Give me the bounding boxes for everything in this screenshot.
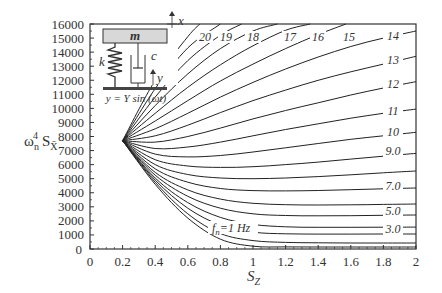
y-tick-label: 2000 [58,213,84,228]
y-tick-label: 15000 [52,31,85,46]
spring-label: k [99,54,105,69]
curve-label-20: 20 [199,30,211,44]
x-tick-label: 0.6 [180,254,197,269]
y-tick-label: 6000 [58,157,84,172]
mass-label: m [130,28,140,43]
y-axis-title: ωn4SX̄ [24,130,58,152]
x-tick-label: 2 [413,254,420,269]
spring-mass-damper-inset: m k c y x y = Y sin (ωt) [94,11,184,105]
curve-label-10: 10 [387,125,399,139]
damper-label: c [151,48,157,63]
y-tick-label: 13000 [52,59,85,74]
y-tick-label: 0 [76,242,83,257]
curve-label-16: 16 [312,30,324,44]
x-arrow-icon [169,11,175,16]
x-title-sub-Z: Z [255,276,261,287]
y-title-S: S [42,133,50,149]
y-tick-label: 5000 [58,171,84,186]
y-tick-label: 7000 [58,143,84,158]
y-title-sub-X: X̄ [50,141,58,152]
y-tick-label: 9000 [58,115,84,130]
x-tick-label: 0.8 [212,254,228,269]
y-axis-ticks: 0100020003000400050006000700080009000100… [52,17,95,258]
curve-label-13: 13 [387,53,399,67]
curve-label-11: 11 [387,104,398,118]
curve-label-12: 12 [387,77,399,91]
svg-text:ωn4SX̄: ωn4SX̄ [24,130,58,152]
x-tick-label: 1.2 [277,254,293,269]
x-tick-label: 0.4 [147,254,164,269]
curve-label-18: 18 [247,30,259,44]
y-label: y [155,70,163,85]
y-tick-label: 12000 [52,73,85,88]
x-axis-title: SZ [247,268,261,287]
curve-fn-9 [123,141,416,168]
curve-label-15: 15 [343,30,355,44]
x-tick-label: 1.8 [375,254,391,269]
curve-label-7.0: 7.0 [386,179,401,193]
x-label: x [177,13,184,28]
curve-label-19: 19 [220,30,232,44]
x-tick-label: 0.2 [114,254,130,269]
curve-label-14: 14 [387,29,399,43]
curve-label-5.0: 5.0 [386,204,401,218]
y-title-sub-n: n [34,141,39,152]
y-title-sup-4: 4 [33,130,38,141]
curve-fn-10 [123,132,416,157]
equation-label: y = Y sin (ωt) [105,92,167,105]
y-tick-label: 16000 [52,17,85,32]
y-tick-label: 11000 [52,87,84,102]
y-tick-label: 8000 [58,129,84,144]
y-tick-label: 14000 [52,45,85,60]
y-tick-label: 1000 [58,227,84,242]
svg-text:SZ: SZ [247,268,261,287]
x-tick-label: 1.4 [310,254,327,269]
y-tick-label: 10000 [52,101,85,116]
x-tick-label: 1.6 [343,254,360,269]
curve-fn-8 [123,141,416,179]
y-tick-label: 3000 [58,199,84,214]
chart: 0100020003000400050006000700080009000100… [0,0,442,293]
curve-label-3.0: 3.0 [385,222,401,236]
curve-fn-12 [123,82,416,143]
curve-label-17: 17 [284,30,297,44]
x-tick-label: 0 [87,254,94,269]
x-tick-label: 1 [250,254,257,269]
base-plate [103,87,167,90]
curve-label-9.0: 9.0 [386,144,401,158]
y-tick-label: 4000 [58,185,84,200]
